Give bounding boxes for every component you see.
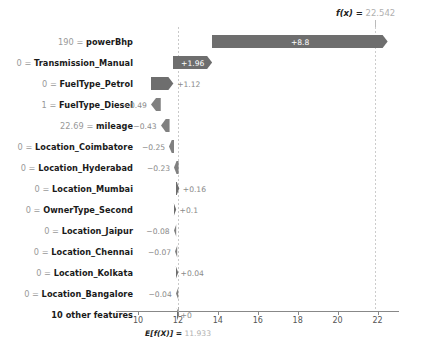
feature-separator: = — [49, 226, 61, 236]
feature-name: Location_Jaipur — [62, 226, 133, 236]
feature-separator: = — [31, 205, 43, 215]
feature-name: Location_Chennai — [51, 247, 133, 257]
feature-separator: = — [74, 37, 86, 47]
x-axis-tick — [218, 311, 219, 315]
feature-row: 0 = FuelType_Petrol+1.12 — [0, 73, 426, 94]
feature-row-label: 0 = Location_Chennai — [34, 247, 133, 257]
feature-separator: = — [84, 121, 96, 131]
feature-separator: = — [26, 163, 38, 173]
feature-row-label: 0 = OwnerType_Second — [26, 205, 133, 215]
feature-row: 0 = Location_Bangalore−0.04 — [0, 283, 426, 304]
shap-bar — [176, 283, 184, 304]
feature-name: Location_Bangalore — [42, 289, 133, 299]
shap-bar-value: +0.16 — [183, 184, 206, 193]
feature-row: 0 = Transmission_Manual+1.96 — [0, 52, 426, 73]
feature-name: Transmission_Manual — [34, 58, 133, 68]
x-axis-tick — [378, 311, 379, 315]
fx-value: 22.542 — [365, 8, 395, 18]
feature-separator: = — [47, 100, 59, 110]
feature-row: 0 = Location_Chennai−0.07 — [0, 241, 426, 262]
feature-row: 0 = Location_Mumbai+0.16 — [0, 178, 426, 199]
feature-name: mileage — [96, 121, 133, 131]
feature-row-label: 0 = Location_Mumbai — [35, 184, 133, 194]
x-axis-tick-label: 16 — [253, 316, 263, 325]
shap-bar-value: −0.07 — [148, 247, 171, 256]
shap-waterfall-plot: f(x) = 22.542 190 = powerBhp+8.80 = Tran… — [0, 0, 426, 349]
shap-bar — [175, 241, 183, 262]
feature-row: 1 = FuelType_Diesel−0.49 — [0, 94, 426, 115]
feature-value: 190 — [58, 37, 74, 47]
fx-tick-mark — [375, 20, 376, 27]
shap-bar-value: −0.23 — [147, 163, 170, 172]
shap-bar-value: −0.43 — [133, 121, 156, 130]
x-axis-tick-label: 18 — [293, 316, 303, 325]
feature-row-label: 0 = Location_Jaipur — [44, 226, 133, 236]
base-value: 11.933 — [184, 329, 211, 338]
x-axis-tick-label: 20 — [332, 316, 342, 325]
x-axis-tick — [258, 311, 259, 315]
feature-separator: = — [23, 142, 35, 152]
fx-symbol: f(x) — [336, 8, 353, 18]
feature-name: powerBhp — [86, 37, 133, 47]
fx-equals: = — [356, 8, 363, 18]
feature-separator: = — [39, 247, 51, 257]
x-axis-tick-label: 14 — [213, 316, 223, 325]
feature-row: 0 = Location_Hyderabad−0.23 — [0, 157, 426, 178]
shap-bar-value: −0.08 — [146, 226, 169, 235]
shap-bar — [174, 157, 185, 178]
shap-bar-value: −0.49 — [124, 100, 147, 109]
output-value-annotation: f(x) = 22.542 — [336, 8, 395, 18]
feature-name: Location_Coimbatore — [35, 142, 133, 152]
shap-bar — [169, 136, 180, 157]
feature-row: 0 = Location_Coimbatore−0.25 — [0, 136, 426, 157]
feature-name: FuelType_Petrol — [59, 79, 133, 89]
feature-row-label: 0 = Location_Hyderabad — [21, 163, 133, 173]
feature-separator: = — [47, 79, 59, 89]
feature-row: 0 = OwnerType_Second+0.1 — [0, 199, 426, 220]
base-equals: = — [176, 329, 182, 338]
feature-row-label: 0 = Location_Coimbatore — [18, 142, 133, 152]
feature-separator: = — [40, 184, 52, 194]
feature-row: 22.69 = mileage−0.43 — [0, 115, 426, 136]
feature-value: 22.69 — [60, 121, 84, 131]
feature-separator: = — [29, 289, 41, 299]
shap-bar-value: −0.04 — [148, 289, 171, 298]
x-axis-tick — [338, 311, 339, 315]
feature-row: 0 = Location_Kolkata+0.04 — [0, 262, 426, 283]
shap-bar-value: +1.12 — [177, 79, 200, 88]
feature-name: Location_Kolkata — [54, 268, 133, 278]
base-value-annotation: E[f(X)] = 11.933 — [145, 329, 211, 338]
feature-separator: = — [22, 58, 34, 68]
feature-separator: = — [41, 268, 53, 278]
x-axis-tick-label: 10 — [133, 316, 143, 325]
shap-bar-value: +0.04 — [181, 268, 204, 277]
feature-row-label: 0 = FuelType_Petrol — [42, 79, 133, 89]
shap-bar — [151, 94, 167, 115]
feature-row: 190 = powerBhp+8.8 — [0, 31, 426, 52]
x-axis-tick — [298, 311, 299, 315]
feature-row-label: 0 = Location_Kolkata — [36, 268, 133, 278]
feature-name: Location_Mumbai — [52, 184, 133, 194]
feature-row: 0 = Location_Jaipur−0.08 — [0, 220, 426, 241]
shap-bar-value: +8.8 — [291, 37, 309, 46]
base-symbol: E[f(X)] — [145, 329, 173, 338]
feature-name: FuelType_Diesel — [59, 100, 133, 110]
feature-row-label: 0 = Location_Bangalore — [24, 289, 133, 299]
feature-row-label: 0 = Transmission_Manual — [17, 58, 133, 68]
feature-row-label: 1 = FuelType_Diesel — [42, 100, 133, 110]
x-axis-tick-label: 12 — [173, 316, 183, 325]
x-axis-tick-label: 22 — [372, 316, 382, 325]
shap-bar — [174, 220, 182, 241]
feature-row-label: 22.69 = mileage — [60, 121, 133, 131]
feature-name: Location_Hyderabad — [38, 163, 133, 173]
feature-name: OwnerType_Second — [43, 205, 133, 215]
shap-bar — [151, 73, 179, 94]
shap-bar — [161, 115, 176, 136]
shap-bar-value: −0.25 — [142, 142, 165, 151]
shap-bar-value: +1.96 — [181, 58, 204, 67]
feature-row-label: 190 = powerBhp — [58, 37, 133, 47]
shap-bar-value: +0.1 — [180, 205, 198, 214]
base-tick-mark — [178, 307, 179, 312]
x-axis-tick — [138, 311, 139, 315]
